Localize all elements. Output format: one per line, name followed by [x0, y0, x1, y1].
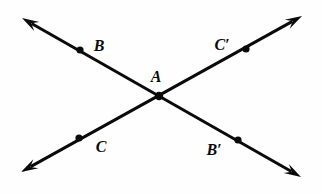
- arrowhead-line-C-Cprime-start: [21, 159, 38, 172]
- geometry-canvas: [0, 0, 322, 194]
- point-dot-bprime: [234, 136, 241, 143]
- point-label-c: C: [96, 139, 107, 155]
- point-label-bprime: B′: [206, 142, 221, 158]
- arrowhead-line-B-Bprime-end: [284, 164, 301, 177]
- point-label-a: A: [151, 69, 162, 85]
- point-dot-a: [155, 92, 163, 100]
- geometry-figure: B C′ A C B′: [0, 0, 322, 194]
- point-dot-c: [75, 134, 82, 141]
- arrowhead-line-B-Bprime-start: [22, 18, 39, 31]
- point-dot-b: [76, 46, 83, 53]
- point-label-b: B: [94, 38, 105, 54]
- arrowhead-line-C-Cprime-end: [285, 16, 302, 29]
- point-label-cprime: C′: [214, 37, 229, 53]
- point-dot-cprime: [242, 45, 249, 52]
